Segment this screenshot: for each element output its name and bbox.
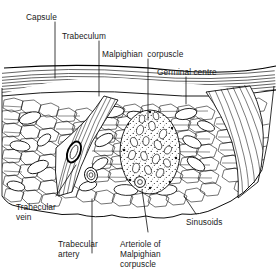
spleen-diagram-figure: Capsule Trabeculum Malpighian corpuscle … bbox=[0, 0, 277, 277]
label-capsule: Capsule bbox=[26, 13, 57, 23]
label-trabecular-artery-line2: artery bbox=[58, 250, 80, 260]
trabeculum-right bbox=[202, 84, 272, 206]
label-trabecular-vein-line2: vein bbox=[16, 213, 31, 223]
arteriole-lumen bbox=[135, 177, 146, 188]
capsule-outer-edge bbox=[4, 65, 276, 72]
tissue-right-border bbox=[262, 86, 274, 170]
label-sinusoids: Sinusoids bbox=[186, 218, 222, 228]
leader-sinusoids bbox=[184, 196, 196, 214]
label-malpighian-corpuscle: Malpighian corpuscle bbox=[102, 50, 183, 60]
leader-arteriole bbox=[142, 190, 148, 232]
label-germinal-centre: Germinal centre bbox=[157, 68, 217, 78]
label-arteriole-line3: corpuscle bbox=[120, 260, 156, 270]
label-trabeculum: Trabeculum bbox=[62, 32, 106, 42]
spleen-section-drawing bbox=[0, 0, 277, 277]
